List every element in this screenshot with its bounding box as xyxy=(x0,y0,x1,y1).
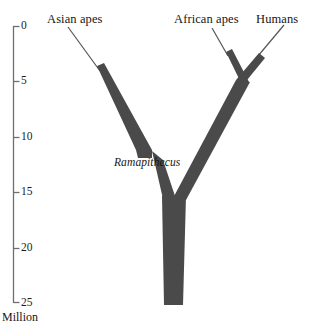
axis-tick-label-5: 5 xyxy=(21,75,27,87)
taxon-label-asian-apes: Asian apes xyxy=(47,13,103,26)
african-apes-leader-line xyxy=(212,28,228,56)
phylogenetic-tree-figure: 0 5 10 15 20 25 Million Asian apes Afric… xyxy=(0,0,313,324)
fossil-label-ramapithecus: Ramapithecus xyxy=(114,157,180,169)
axis-tick-label-15: 15 xyxy=(21,186,33,198)
taxon-label-african-apes: African apes xyxy=(174,13,239,26)
african-human-stem-branch xyxy=(172,80,250,200)
axis-tick-label-25: 25 xyxy=(21,297,33,309)
humans-leader-line xyxy=(258,25,284,56)
taxon-label-humans: Humans xyxy=(256,13,298,26)
asian-apes-leader-line xyxy=(68,27,100,71)
time-axis xyxy=(14,26,20,303)
axis-caption-million: Million xyxy=(2,311,38,323)
lineage-bodies xyxy=(97,49,265,305)
axis-tick-label-0: 0 xyxy=(21,20,27,32)
asian-apes-branch xyxy=(97,63,152,158)
axis-tick-label-20: 20 xyxy=(21,242,33,254)
root-trunk-branch xyxy=(162,196,186,305)
axis-tick-label-10: 10 xyxy=(21,131,33,143)
